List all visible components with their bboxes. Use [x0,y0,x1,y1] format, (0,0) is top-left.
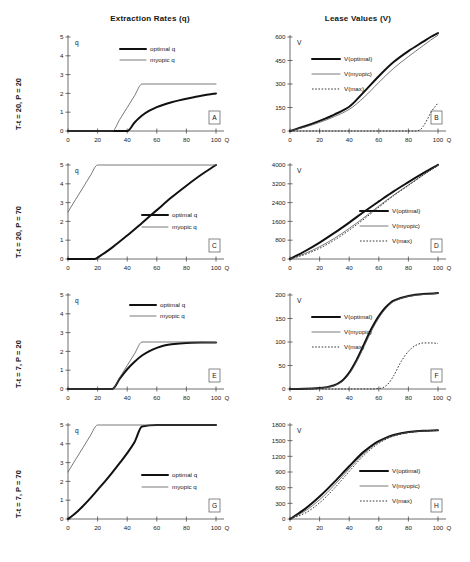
y-tick-label-4: 4 [60,180,64,187]
column-title-extraction-rates: Extraction Rates (q) [70,14,230,23]
x-axis-name: Q [447,136,452,143]
y-tick-label-3: 450 [275,57,286,64]
x-tick-label-5: 100 [211,524,222,531]
x-tick-label-1: 20 [316,264,323,271]
x-tick-label-2: 40 [346,264,353,271]
y-tick-label-1: 150 [275,104,286,111]
x-tick-label-1: 20 [94,264,101,271]
y-tick-label-1: 800 [275,236,286,243]
panel-e: 012345020406080100Qqoptimal qmyopic qE [28,283,242,409]
panel-letter: A [212,114,217,121]
y-tick-label-0: 0 [60,515,64,522]
y-tick-label-0: 0 [60,127,64,134]
x-tick-label-5: 100 [211,136,222,143]
y-tick-label-4: 200 [275,291,286,298]
legend-label-0: optimal q [172,211,198,218]
y-tick-label-1: 50 [279,362,286,369]
x-axis-name: Q [447,524,452,531]
y-tick-label-2: 1600 [272,218,286,225]
x-tick-label-4: 80 [405,394,412,401]
y-tick-label-2: 2 [60,478,64,485]
y-axis-name: V [297,39,302,46]
y-tick-label-3: 3 [60,199,64,206]
x-tick-label-5: 100 [433,264,444,271]
y-tick-label-1: 1 [60,108,64,115]
y-tick-label-2: 300 [275,80,286,87]
plot-d: 08001600240032004000020406080100QVV(opti… [250,153,464,279]
x-axis-name: Q [225,394,230,401]
x-tick-label-1: 20 [316,394,323,401]
series-myopic-q [68,165,216,212]
x-tick-label-5: 100 [211,394,222,401]
series-myopic-q [68,84,216,131]
plot-f: 050100150200020406080100QVV(optimal)V(my… [250,283,464,409]
plot-a: 012345020406080100Qqoptimal qmyopic qA [28,25,242,151]
x-tick-label-4: 80 [405,264,412,271]
legend-label-1: myopic q [172,483,197,490]
legend-label-0: optimal q [160,301,186,308]
row-label-2: T-t = 7, P = 20 [14,340,23,388]
panel-letter: C [212,242,217,249]
x-axis-name: Q [447,264,452,271]
panel-letter: F [434,372,438,379]
x-tick-label-5: 100 [433,524,444,531]
legend-label-1: V(myopic) [344,70,372,77]
x-axis-name: Q [225,264,230,271]
y-tick-label-4: 1200 [272,453,286,460]
panel-a: 012345020406080100Qqoptimal qmyopic qA [28,25,242,151]
x-tick-label-2: 40 [124,264,131,271]
y-tick-label-0: 0 [60,385,64,392]
x-axis-name: Q [225,524,230,531]
y-axis-name: q [75,297,79,305]
series-v-max- [290,343,438,389]
x-tick-label-0: 0 [66,264,70,271]
legend-label-2: V(max) [344,85,364,92]
x-tick-label-1: 20 [94,394,101,401]
plot-b: 0150300450600020406080100QVV(optimal)V(m… [250,25,464,151]
y-tick-label-2: 2 [60,218,64,225]
panel-b: 0150300450600020406080100QVV(optimal)V(m… [250,25,464,151]
y-tick-label-4: 3200 [272,180,286,187]
panel-letter: H [434,502,439,509]
figure-root: Extraction Rates (q) Lease Values (V) T-… [0,0,470,562]
series-v-optimal- [290,293,438,389]
y-tick-label-1: 1 [60,496,64,503]
x-tick-label-3: 60 [375,394,382,401]
x-tick-label-0: 0 [66,394,70,401]
x-tick-label-1: 20 [94,524,101,531]
panel-letter: B [434,114,439,121]
legend-label-2: V(max) [392,237,412,244]
panel-g: 012345020406080100Qqoptimal qmyopic qG [28,413,242,539]
x-tick-label-3: 60 [153,136,160,143]
x-axis-name: Q [225,136,230,143]
plot-e: 012345020406080100Qqoptimal qmyopic qE [28,283,242,409]
x-tick-label-3: 60 [375,136,382,143]
panel-c: 012345020406080100Qqoptimal qmyopic qC [28,153,242,279]
x-axis-name: Q [447,394,452,401]
y-tick-label-2: 100 [275,338,286,345]
series-v-myopic- [290,294,438,389]
legend-label-0: V(optimal) [392,207,420,214]
y-tick-label-2: 2 [60,348,64,355]
x-tick-label-1: 20 [316,136,323,143]
x-tick-label-0: 0 [66,524,70,531]
x-tick-label-2: 40 [124,136,131,143]
legend-label-1: myopic q [172,223,197,230]
x-tick-label-2: 40 [346,136,353,143]
legend-label-2: V(max) [392,497,412,504]
x-tick-label-0: 0 [288,136,292,143]
y-tick-label-0: 0 [282,255,286,262]
y-tick-label-1: 1 [60,236,64,243]
y-tick-label-0: 0 [282,127,286,134]
x-tick-label-0: 0 [288,264,292,271]
row-label-3: T-t = 7, P = 70 [14,470,23,518]
panel-h: 0300600900120015001800020406080100QVV(op… [250,413,464,539]
panel-letter: E [212,372,217,379]
x-tick-label-2: 40 [124,394,131,401]
y-tick-label-3: 3 [60,329,64,336]
y-axis-name: q [75,427,79,435]
y-tick-label-1: 1 [60,366,64,373]
y-axis-name: q [75,167,79,175]
y-axis-name: q [75,39,79,47]
legend-label-2: V(max) [344,343,364,350]
